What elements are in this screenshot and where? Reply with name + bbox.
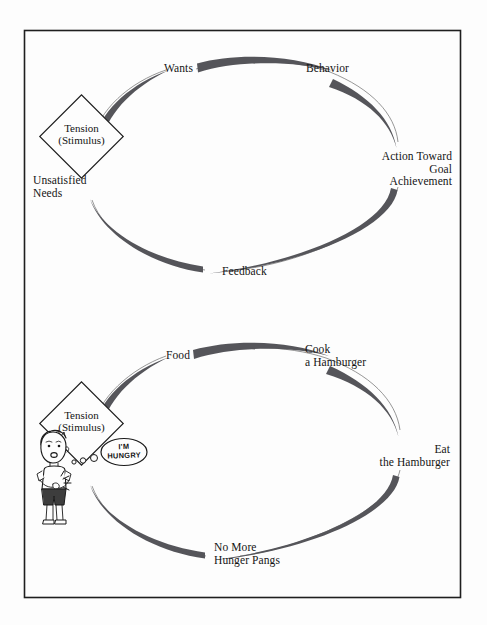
diagram-canvas: [0, 0, 487, 625]
bottom-hairline-cook-eat: [326, 358, 400, 430]
top-tension-line1: Tension: [64, 122, 99, 134]
bottom-hairline-nohunger-tension: [92, 486, 206, 556]
bottom-tension-diamond-label: Tension(Stimulus): [36, 409, 127, 433]
top-arc-feedback-to-needs: [90, 199, 203, 273]
label-wants: Wants: [108, 62, 193, 75]
bottom-tension-line1: Tension: [64, 409, 99, 421]
label-no-more-hunger-pangs: No More Hunger Pangs: [214, 541, 344, 566]
diagram-page: Tension(Stimulus) Wants Behavior Action …: [0, 0, 487, 625]
top-tension-diamond-label: Tension(Stimulus): [36, 122, 127, 146]
bottom-arc-cook-to-eat: [326, 366, 399, 437]
label-feedback: Feedback: [222, 265, 322, 278]
top-hairline-feedback-needs: [92, 200, 205, 270]
top-tension-line2: (Stimulus): [58, 134, 104, 146]
label-eat-the-hamburger: Eat the Hamburger: [330, 443, 450, 468]
label-behavior: Behavior: [306, 62, 416, 75]
top-hairline-behavior-action: [330, 72, 398, 142]
top-arc-action-to-feedback: [209, 188, 398, 274]
speech-bubble-label: I'MHUNGRY: [101, 442, 148, 461]
speech-bubble-line2: HUNGRY: [107, 450, 141, 460]
boy-character-icon: [37, 430, 71, 524]
top-hairline-action-feedback: [236, 187, 398, 270]
label-cook-a-hamburger: Cook a Hamburger: [305, 343, 425, 368]
label-action-toward-goal-achievement: Action Toward Goal Achievement: [317, 150, 452, 188]
label-food: Food: [110, 349, 190, 362]
label-unsatisfied-needs: Unsatisfied Needs: [33, 174, 143, 199]
bottom-arc-nohunger-to-tension: [90, 485, 205, 559]
bottom-tension-line2: (Stimulus): [58, 421, 104, 433]
